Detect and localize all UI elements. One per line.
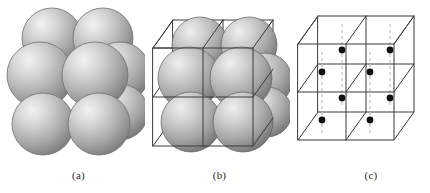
panel-a-caption: (a) bbox=[0, 168, 151, 182]
hard-sphere-unit-cell-svg bbox=[0, 0, 145, 168]
figure-root: (a) bbox=[0, 0, 430, 193]
top-edge-l bbox=[298, 16, 318, 44]
panel-a-artwork bbox=[0, 0, 145, 168]
lattice-point-cell-svg bbox=[288, 0, 430, 168]
panel-b-artwork bbox=[145, 0, 290, 168]
lattice-dot-front-left-lower bbox=[319, 117, 326, 124]
depth-edge-bm bbox=[346, 112, 366, 140]
lattice-dot-front-right-upper bbox=[367, 69, 374, 76]
sphere-front-bottom-left bbox=[12, 93, 74, 155]
sphere-group bbox=[158, 17, 290, 152]
panel-b-caption: (b) bbox=[145, 168, 292, 182]
sphere-front-bottom-left bbox=[161, 92, 221, 152]
top-edge-r bbox=[394, 16, 414, 44]
depth-edge-tm bbox=[346, 16, 366, 44]
wireframe-depth-edges bbox=[298, 16, 414, 140]
lattice-dot-front-right-lower bbox=[367, 117, 374, 124]
dashed-guide-lines bbox=[322, 24, 390, 136]
panel-c-artwork bbox=[288, 0, 430, 168]
lattice-dot-back-left-lower bbox=[339, 95, 346, 102]
depth-edge-mm bbox=[346, 64, 366, 92]
depth-edge-mr bbox=[394, 64, 414, 92]
panel-c-caption: (c) bbox=[288, 168, 430, 182]
lattice-dot-back-right-lower bbox=[387, 95, 394, 102]
wireframe-front-diag-tl bbox=[153, 20, 173, 48]
lattice-dot-back-right-upper bbox=[387, 47, 394, 54]
panel-b-aggregate-model: (b) bbox=[145, 0, 290, 193]
panel-c-reduced-sphere-model: (c) bbox=[288, 0, 430, 193]
depth-edge-ml bbox=[298, 64, 318, 92]
sphere-layer-front-bottom bbox=[12, 93, 130, 155]
sphere-front-bottom-right bbox=[213, 92, 273, 152]
panel-a-hard-sphere-model: (a) bbox=[0, 0, 145, 193]
sphere-front-bottom-right bbox=[68, 93, 130, 155]
sphere-in-wireframe-svg bbox=[145, 0, 290, 168]
lattice-dot-front-left-upper bbox=[319, 69, 326, 76]
lattice-dot-back-left-upper bbox=[339, 47, 346, 54]
depth-edge-br bbox=[394, 112, 414, 140]
depth-edge-bl bbox=[298, 112, 318, 140]
